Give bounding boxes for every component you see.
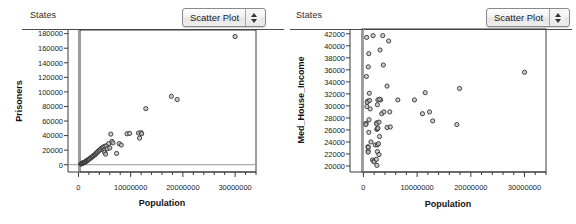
y-tick-label: 36000 xyxy=(324,66,345,75)
data-point[interactable] xyxy=(368,98,372,102)
data-point[interactable] xyxy=(381,63,385,67)
data-point-group xyxy=(364,34,527,168)
data-point[interactable] xyxy=(128,131,132,135)
y-tick-label: 180000 xyxy=(38,29,63,38)
y-tick-label: 34000 xyxy=(324,78,345,87)
scatter-plot-dual-panel: States Scatter Plot 02000040000600008000… xyxy=(0,0,576,224)
data-point[interactable] xyxy=(374,157,378,161)
x-tick-label: 20000000 xyxy=(166,183,199,192)
data-point[interactable] xyxy=(175,97,179,101)
data-point[interactable] xyxy=(144,107,148,111)
x-tick-label: 0 xyxy=(361,183,365,192)
data-point[interactable] xyxy=(368,107,372,111)
data-point[interactable] xyxy=(385,84,389,88)
y-tick-label: 20000 xyxy=(324,162,345,171)
data-point[interactable] xyxy=(367,52,371,56)
data-point-group xyxy=(79,34,237,166)
y-tick-label: 80000 xyxy=(42,102,63,111)
scatter-chart-prisoners: 0200004000060000800001000001200001400001… xyxy=(0,0,288,224)
y-tick-label: 24000 xyxy=(324,138,345,147)
data-point[interactable] xyxy=(367,91,371,95)
data-point[interactable] xyxy=(381,34,385,38)
data-point[interactable] xyxy=(377,152,381,156)
y-tick-label: 40000 xyxy=(324,42,345,51)
data-point[interactable] xyxy=(377,97,381,101)
y-tick-label: 38000 xyxy=(324,54,345,63)
data-point[interactable] xyxy=(378,48,382,52)
data-point[interactable] xyxy=(109,132,113,136)
y-tick-label: 0 xyxy=(59,161,63,170)
y-axis-title: Prisoners xyxy=(14,80,24,122)
data-point[interactable] xyxy=(365,35,369,39)
plot-area-prisoners: 0200004000060000800001000001200001400001… xyxy=(0,0,288,224)
data-point[interactable] xyxy=(375,103,379,107)
x-tick-label: 0 xyxy=(76,183,80,192)
y-axis-title: Med_House_Income xyxy=(296,56,306,143)
data-point[interactable] xyxy=(431,119,435,123)
y-tick-label: 60000 xyxy=(42,117,63,126)
y-tick-label: 160000 xyxy=(38,44,63,53)
y-tick-label: 42000 xyxy=(324,30,345,39)
data-point[interactable] xyxy=(455,122,459,126)
x-tick-label: 10000000 xyxy=(114,183,147,192)
data-point[interactable] xyxy=(377,120,381,124)
data-point[interactable] xyxy=(375,163,379,167)
data-point[interactable] xyxy=(364,122,368,126)
data-point[interactable] xyxy=(522,70,526,74)
y-tick-label: 22000 xyxy=(324,150,345,159)
data-point[interactable] xyxy=(169,94,173,98)
data-point[interactable] xyxy=(108,146,112,150)
data-point[interactable] xyxy=(377,134,381,138)
x-tick-label: 30000000 xyxy=(508,183,541,192)
data-point[interactable] xyxy=(382,110,386,114)
data-point[interactable] xyxy=(119,143,123,147)
data-point[interactable] xyxy=(423,91,427,95)
data-point[interactable] xyxy=(233,34,237,38)
x-tick-label: 30000000 xyxy=(218,183,251,192)
panel-med-house-income: States Scatter Plot 20000220002400026000… xyxy=(288,0,576,224)
data-point[interactable] xyxy=(366,65,370,69)
plot-frame xyxy=(362,29,546,172)
data-point[interactable] xyxy=(366,150,370,154)
data-point[interactable] xyxy=(420,112,424,116)
data-point[interactable] xyxy=(457,86,461,90)
y-tick-label: 100000 xyxy=(38,88,63,97)
x-tick-label: 10000000 xyxy=(400,183,433,192)
data-point[interactable] xyxy=(388,125,392,129)
data-point[interactable] xyxy=(412,98,416,102)
y-tick-label: 26000 xyxy=(324,126,345,135)
data-point[interactable] xyxy=(369,140,373,144)
data-point[interactable] xyxy=(114,151,118,155)
data-point[interactable] xyxy=(376,126,380,130)
data-point[interactable] xyxy=(111,141,115,145)
plot-area-med-house-income: 2000022000240002600028000300003200034000… xyxy=(288,0,576,224)
x-tick-label: 20000000 xyxy=(454,183,487,192)
data-point[interactable] xyxy=(367,130,371,134)
x-axis-title: Population xyxy=(139,198,186,208)
data-point[interactable] xyxy=(364,74,368,78)
data-point[interactable] xyxy=(137,136,141,140)
panel-prisoners: States Scatter Plot 02000040000600008000… xyxy=(0,0,288,224)
y-tick-label: 28000 xyxy=(324,114,345,123)
data-point[interactable] xyxy=(387,39,391,43)
data-point[interactable] xyxy=(140,132,144,136)
y-tick-label: 32000 xyxy=(324,90,345,99)
y-tick-label: 30000 xyxy=(324,102,345,111)
y-tick-label: 40000 xyxy=(42,131,63,140)
data-point[interactable] xyxy=(388,110,392,114)
data-point[interactable] xyxy=(376,142,380,146)
data-point[interactable] xyxy=(371,34,375,38)
y-tick-label: 20000 xyxy=(42,146,63,155)
scatter-chart-med-house-income: 2000022000240002600028000300003200034000… xyxy=(288,0,576,224)
data-point[interactable] xyxy=(427,110,431,114)
x-axis-title: Population xyxy=(425,199,472,209)
y-tick-label: 140000 xyxy=(38,59,63,68)
y-tick-label: 120000 xyxy=(38,73,63,82)
data-point[interactable] xyxy=(367,118,371,122)
data-point[interactable] xyxy=(104,152,108,156)
data-point[interactable] xyxy=(396,98,400,102)
